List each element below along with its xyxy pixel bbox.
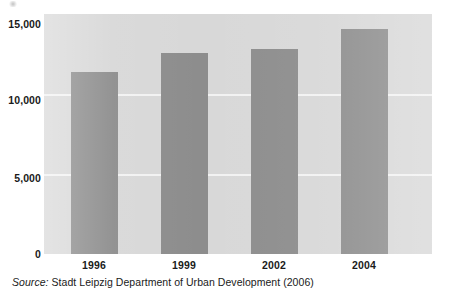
bar-1999[interactable] bbox=[161, 53, 208, 254]
y-tick-label-0: 0 bbox=[1, 249, 41, 260]
bar-1996[interactable] bbox=[71, 72, 118, 254]
y-tick-label-5000: 5,000 bbox=[1, 173, 41, 184]
x-tick-label-2002: 2002 bbox=[239, 259, 309, 271]
source-label: Source: bbox=[12, 276, 49, 288]
y-tick-label-15000: 15,000 bbox=[1, 19, 41, 30]
y-axis: 15,000 10,000 5,000 0 bbox=[0, 0, 41, 293]
x-tick-label-2004: 2004 bbox=[329, 259, 399, 271]
y-tick-label-10000: 10,000 bbox=[1, 95, 41, 106]
x-tick-label-1999: 1999 bbox=[149, 259, 219, 271]
chart-figure: 15,000 10,000 5,000 0 1996 1999 2002 200… bbox=[0, 0, 450, 293]
plot-area bbox=[44, 14, 432, 254]
bar-2004[interactable] bbox=[341, 29, 388, 254]
source-note: Source: Stadt Leipzig Department of Urba… bbox=[12, 276, 314, 288]
x-tick-label-1996: 1996 bbox=[59, 259, 129, 271]
bar-2002[interactable] bbox=[251, 49, 298, 254]
source-text: Stadt Leipzig Department of Urban Develo… bbox=[49, 276, 314, 288]
